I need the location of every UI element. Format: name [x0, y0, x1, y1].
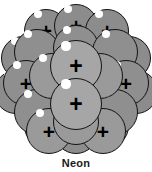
- figure-caption: Neon: [0, 157, 152, 169]
- sphere-highlight: [64, 5, 72, 13]
- sphere-highlight: [95, 10, 103, 18]
- nucleus-sphere-cluster: +++ ++ +++ ++: [0, 0, 152, 152]
- sphere-highlight: [61, 79, 70, 88]
- neon-nucleus-figure: +++ ++ +++ ++ Neon: [0, 0, 152, 172]
- proton-charge-mark: +: [62, 93, 90, 116]
- proton-charge-mark: +: [62, 55, 90, 78]
- sphere-highlight: [34, 10, 42, 18]
- sphere-highlight: [61, 41, 70, 50]
